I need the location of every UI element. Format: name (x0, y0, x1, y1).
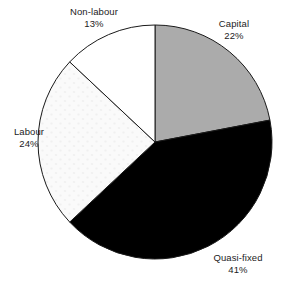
pie-label-quasi-fixed-name: Quasi-fixed (202, 252, 274, 264)
pie-label-capital-name: Capital (204, 18, 264, 30)
pie-label-non-labour-value: 13% (56, 18, 132, 30)
pie-chart: Non-labour 13% Capital 22% Labour 24% Qu… (0, 0, 284, 287)
pie-label-labour: Labour 24% (3, 126, 55, 150)
pie-label-quasi-fixed-value: 41% (202, 264, 274, 276)
pie-label-capital-value: 22% (204, 30, 264, 42)
pie-label-labour-value: 24% (3, 138, 55, 150)
pie-label-non-labour: Non-labour 13% (56, 6, 132, 30)
pie-slices (38, 25, 272, 259)
pie-label-capital: Capital 22% (204, 18, 264, 42)
pie-label-labour-name: Labour (3, 126, 55, 138)
pie-label-non-labour-name: Non-labour (56, 6, 132, 18)
pie-label-quasi-fixed: Quasi-fixed 41% (202, 252, 274, 276)
